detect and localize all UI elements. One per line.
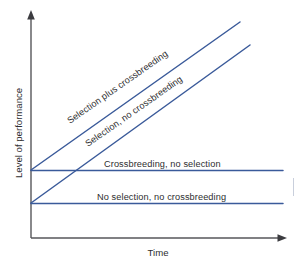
label-crossbreeding-no-selection: Crossbreeding, no selection xyxy=(104,159,221,169)
x-axis-label: Time xyxy=(148,247,169,258)
x-axis xyxy=(31,234,287,242)
label-no-selection-no-crossbreeding: No selection, no crossbreeding xyxy=(97,192,226,202)
line-selection-plus-crossbreeding xyxy=(31,22,240,170)
y-axis-label: Level of performance xyxy=(13,88,24,178)
label-selection-no-crossbreeding: Selection, no crossbreeding xyxy=(83,74,184,149)
performance-breeding-chart: Selection plus crossbreeding Selection, … xyxy=(0,0,298,269)
